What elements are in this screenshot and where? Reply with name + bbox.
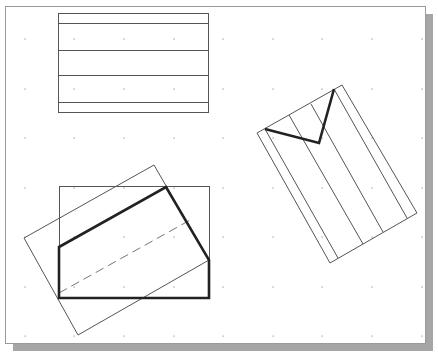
drawing-canvas[interactable] xyxy=(0,0,438,354)
grid-dot xyxy=(273,237,274,238)
grid-dot xyxy=(74,138,75,139)
grid-dot xyxy=(124,336,125,337)
grid-dot xyxy=(322,39,323,40)
grid-dot xyxy=(372,237,373,238)
grid-dot xyxy=(25,138,26,139)
grid-dot xyxy=(223,39,224,40)
grid-dot xyxy=(273,188,274,189)
grid-dot xyxy=(174,237,175,238)
grid-dot xyxy=(422,287,423,288)
grid-dot xyxy=(273,89,274,90)
grid-dot xyxy=(74,287,75,288)
grid-dot xyxy=(372,336,373,337)
grid-dot xyxy=(422,237,423,238)
grid-dot xyxy=(74,188,75,189)
grid-dot xyxy=(25,336,26,337)
grid-dot xyxy=(25,39,26,40)
grid-dot xyxy=(223,237,224,238)
grid-dot xyxy=(273,287,274,288)
grid-dot xyxy=(223,138,224,139)
grid-dot xyxy=(422,89,423,90)
grid-dot xyxy=(223,188,224,189)
grid-dot xyxy=(174,287,175,288)
grid-dot xyxy=(322,188,323,189)
grid-dot xyxy=(273,138,274,139)
grid-dot xyxy=(372,287,373,288)
grid-dot xyxy=(174,188,175,189)
grid-dot xyxy=(422,188,423,189)
grid-dot xyxy=(322,237,323,238)
grid-dot xyxy=(223,287,224,288)
grid-dot xyxy=(422,336,423,337)
grid-dot xyxy=(174,336,175,337)
grid-dot xyxy=(223,89,224,90)
grid-dot xyxy=(74,89,75,90)
grid-dot xyxy=(273,336,274,337)
grid-dot xyxy=(174,39,175,40)
grid-dot xyxy=(372,39,373,40)
grid-dot xyxy=(273,39,274,40)
drawing-frame xyxy=(6,7,426,344)
grid-dot xyxy=(25,188,26,189)
grid-dot xyxy=(223,336,224,337)
grid-dot xyxy=(124,89,125,90)
grid-dot xyxy=(372,188,373,189)
grid-dot xyxy=(74,336,75,337)
grid-dot xyxy=(74,39,75,40)
grid-dot xyxy=(174,138,175,139)
grid-dot xyxy=(25,287,26,288)
grid-dot xyxy=(422,39,423,40)
grid-dot xyxy=(372,89,373,90)
grid-dot xyxy=(322,287,323,288)
frame-shadow-right xyxy=(425,14,433,351)
grid-dot xyxy=(124,138,125,139)
grid-dot xyxy=(124,39,125,40)
grid-dot xyxy=(124,188,125,189)
grid-dot xyxy=(25,89,26,90)
grid-dot xyxy=(322,89,323,90)
grid-dot xyxy=(124,237,125,238)
grid-dot xyxy=(124,287,125,288)
grid-dot xyxy=(422,138,423,139)
grid-dot xyxy=(174,89,175,90)
grid-dot xyxy=(322,336,323,337)
frame-shadow-bottom xyxy=(13,343,433,351)
